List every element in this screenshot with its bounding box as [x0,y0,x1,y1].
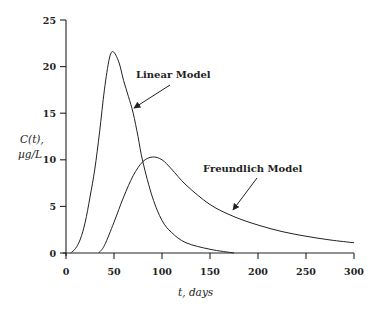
freundlich-model-label: Freundlich Model [203,163,303,174]
y-tick-label: 5 [49,201,56,212]
linear-model-curve [71,52,234,253]
x-tick-label: 300 [344,266,364,277]
y-axis-label-line1: C(t), [20,133,44,145]
y-tick-label: 10 [43,154,57,165]
x-tick-label: 50 [107,266,121,277]
linear-model-label: Linear Model [136,69,211,80]
x-tick-label: 0 [63,266,70,277]
x-tick-label: 250 [296,266,316,277]
x-tick-label: 200 [248,266,268,277]
y-tick-label: 0 [49,248,56,259]
y-axis-label-line2: µg/L [18,148,42,160]
y-tick-label: 15 [43,108,56,119]
linear-model-arrow [134,85,170,108]
x-tick-label: 100 [152,266,172,277]
axes [63,20,354,256]
x-axis-label: t, days [178,286,214,298]
y-tick-label: 20 [43,61,57,72]
concentration-chart: 0501001502002503000510152025 C(t), µg/L … [0,0,380,309]
freundlich-model-arrow [233,178,257,210]
curves [71,52,354,253]
y-tick-label: 25 [43,15,56,26]
x-tick-label: 150 [200,266,220,277]
